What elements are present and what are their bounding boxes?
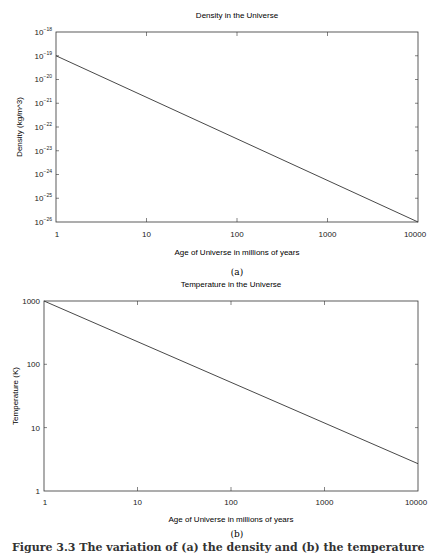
x-tick-label: 10000 [405,498,428,507]
x-tick-label: 100 [230,230,244,239]
x-axis-density: 1 10 100 1000 10000 [55,32,427,239]
density-line [56,56,418,222]
y-tick-label: 100 [27,360,41,369]
x-tick-label: 1 [43,498,48,507]
chart-title-density: Density in the Universe [196,11,279,20]
y-tick-label: 10−18 [35,26,53,37]
x-tick-label: 10000 [404,230,427,239]
y-tick-label: 1000 [22,297,40,306]
plot-frame [44,301,418,491]
x-axis-label-temperature: Age of Universe in millions of years [169,515,294,524]
chart-title-temperature: Temperature in the Universe [181,280,282,289]
x-tick-label: 10 [142,230,151,239]
y-tick-label: 10−24 [35,168,53,179]
y-tick-label: 10−23 [35,145,53,156]
y-axis-density: 10−18 10−19 10−20 10−21 10−22 10−23 10−2… [35,26,418,227]
y-tick-label: 10−21 [35,97,53,108]
panel-label-a: (a) [231,267,243,277]
y-axis-label-density: Density (kg/m^3) [15,97,24,157]
y-tick-label: 10−22 [35,121,53,132]
y-axis-label-temperature: Temperature (K) [11,367,20,425]
plot-frame [56,32,418,222]
y-tick-label: 10−19 [35,50,53,61]
y-axis-temperature: 1000 100 10 1 [22,297,418,496]
x-tick-label: 1 [55,230,60,239]
x-tick-label: 1000 [319,230,337,239]
y-tick-label: 10−26 [35,216,53,227]
x-tick-label: 1000 [316,498,334,507]
temperature-line [44,301,418,464]
chart-density: Density in the Universe 10−18 10−19 10−2… [15,11,427,277]
y-tick-label: 10 [31,424,40,433]
x-tick-label: 100 [224,498,238,507]
x-axis-label-density: Age of Universe in millions of years [175,248,300,257]
y-tick-label: 10−20 [35,73,53,84]
y-tick-label: 10−25 [35,192,53,203]
x-axis-temperature: 1 10 100 1000 10000 [43,301,428,507]
figure-caption: Figure 3.3 The variation of (a) the dens… [12,541,425,554]
chart-temperature: Temperature in the Universe 1000 100 10 … [11,280,428,539]
panel-label-b: (b) [231,529,244,539]
x-tick-label: 10 [133,498,142,507]
y-tick-label: 1 [36,487,41,496]
